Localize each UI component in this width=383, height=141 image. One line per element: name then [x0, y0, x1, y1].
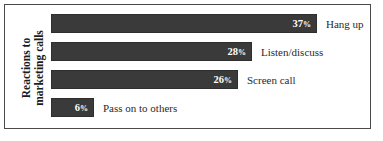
bar-value-label: 6% [75, 102, 88, 113]
bar-value-label: 37% [293, 18, 312, 29]
chart-screenshot: Reactions to marketing calls 37%Hang up2… [0, 0, 383, 141]
bar[interactable]: 37% [51, 14, 317, 33]
plot-area: 37%Hang up28%Listen/discuss26%Screen cal… [51, 13, 367, 123]
bar-category-label: Screen call [247, 74, 296, 85]
bar[interactable]: 26% [51, 70, 238, 89]
bar-row: 37%Hang up [51, 14, 367, 33]
bar[interactable]: 6% [51, 98, 94, 117]
bar-value-label: 28% [228, 46, 247, 57]
bar-category-label: Hang up [326, 18, 364, 29]
bar-row: 28%Listen/discuss [51, 42, 367, 61]
bar-category-label: Pass on to others [103, 102, 177, 113]
y-axis-title-line-1: Reactions to [20, 37, 32, 97]
bar-row: 26%Screen call [51, 70, 367, 89]
bar-value-label: 26% [214, 74, 233, 85]
bar-category-label: Listen/discuss [261, 46, 323, 57]
y-axis-title-line-2: marketing calls [33, 30, 46, 106]
bar[interactable]: 28% [51, 42, 252, 61]
y-axis-title: Reactions to marketing calls [14, 14, 52, 121]
bar-row: 6%Pass on to others [51, 98, 367, 117]
